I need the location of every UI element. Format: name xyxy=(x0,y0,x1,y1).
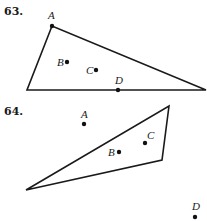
point-label: C xyxy=(147,129,155,141)
point-b xyxy=(117,150,121,154)
triangle xyxy=(26,106,169,190)
point-label: D xyxy=(114,74,123,86)
point-b xyxy=(65,60,69,64)
problem-63: 63. ABCD xyxy=(4,5,206,92)
point-label: B xyxy=(57,56,64,68)
point-label: C xyxy=(86,64,94,76)
geometry-figures: 63. ABCD 64. ABCD xyxy=(0,0,207,221)
point-d xyxy=(193,215,197,219)
point-c xyxy=(143,141,147,145)
point-label: D xyxy=(191,200,200,212)
point-a xyxy=(82,122,86,126)
point-c xyxy=(94,68,98,72)
point-label: A xyxy=(80,108,88,120)
point-a xyxy=(50,24,54,28)
point-d xyxy=(116,88,120,92)
problem-number: 63. xyxy=(4,5,23,18)
problem-number: 64. xyxy=(4,105,23,118)
point-label: A xyxy=(47,9,55,21)
point-label: B xyxy=(108,146,115,158)
problem-64: 64. ABCD xyxy=(4,105,200,219)
